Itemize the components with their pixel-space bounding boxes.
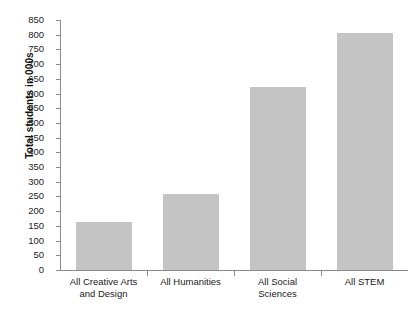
y-axis-tick-label: 800	[4, 29, 44, 40]
y-axis-tick	[56, 49, 60, 50]
y-axis-tick-label: 850	[4, 14, 44, 25]
y-axis-tick-label: 300	[4, 176, 44, 187]
y-axis-tick	[56, 211, 60, 212]
y-axis-tick	[56, 94, 60, 95]
y-axis-tick-label: 750	[4, 43, 44, 54]
y-axis-tick-label: 200	[4, 205, 44, 216]
y-axis-tick	[56, 138, 60, 139]
y-axis-tick-label: 650	[4, 73, 44, 84]
y-axis-tick	[56, 108, 60, 109]
x-axis-category-label: All Humanities	[147, 276, 234, 288]
x-axis-category-label-line: Sciences	[234, 288, 321, 300]
y-axis-tick-label: 0	[4, 264, 44, 275]
bar	[337, 33, 393, 270]
y-axis-tick	[56, 182, 60, 183]
x-axis-category-label-line: and Design	[60, 288, 147, 300]
x-axis-category-label-line: All Social	[234, 276, 321, 288]
y-axis-tick	[56, 226, 60, 227]
y-axis-tick-label: 250	[4, 190, 44, 201]
y-axis-tick-label: 500	[4, 117, 44, 128]
y-axis-line	[60, 20, 61, 271]
y-axis-tick	[56, 20, 60, 21]
y-axis-tick	[56, 167, 60, 168]
x-axis-category-label-line: All Creative Arts	[60, 276, 147, 288]
x-axis-category-label: All SocialSciences	[234, 276, 321, 299]
y-axis-tick-label: 100	[4, 235, 44, 246]
y-axis-tick-label: 150	[4, 220, 44, 231]
y-axis-tick-label: 350	[4, 161, 44, 172]
y-axis-tick	[56, 123, 60, 124]
x-axis-category-label: All Creative Artsand Design	[60, 276, 147, 299]
y-axis-tick-label: 50	[4, 249, 44, 260]
plot-area: 0501001502002503003504004505005506006507…	[60, 20, 408, 270]
y-axis-tick	[56, 270, 60, 271]
x-axis-category-label-line: All STEM	[321, 276, 408, 288]
bar	[250, 87, 306, 270]
bar	[76, 222, 132, 270]
y-axis-tick	[56, 255, 60, 256]
y-axis-tick	[56, 64, 60, 65]
bar	[163, 194, 219, 270]
y-axis-tick	[56, 241, 60, 242]
y-axis-tick-label: 400	[4, 146, 44, 157]
y-axis-tick-label: 450	[4, 132, 44, 143]
y-axis-tick-label: 600	[4, 88, 44, 99]
y-axis-tick	[56, 196, 60, 197]
y-axis-tick	[56, 152, 60, 153]
bar-chart: Total students in 000s 05010015020025030…	[0, 0, 420, 315]
y-axis-tick-label: 700	[4, 58, 44, 69]
x-axis-category-label-line: All Humanities	[147, 276, 234, 288]
y-axis-tick-label: 550	[4, 102, 44, 113]
y-axis-tick	[56, 79, 60, 80]
cropped-title-remnant	[285, 0, 415, 3]
y-axis-tick	[56, 35, 60, 36]
x-axis-category-label: All STEM	[321, 276, 408, 288]
